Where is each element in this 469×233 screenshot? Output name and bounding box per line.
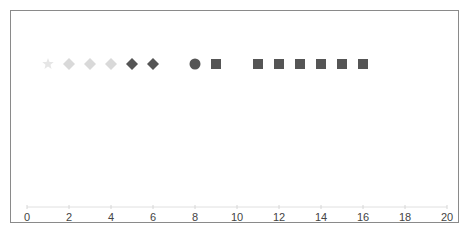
diamond-marker [105, 58, 117, 70]
diamond-marker [126, 58, 138, 70]
x-tick-label: 20 [441, 211, 453, 223]
circle-marker [190, 59, 201, 70]
square-marker [316, 59, 326, 69]
diamond-marker [147, 58, 159, 70]
x-tick-label: 2 [66, 211, 72, 223]
square-marker [358, 59, 368, 69]
x-axis-ticks: 02468101214161820 [24, 205, 453, 223]
x-tick-label: 14 [315, 211, 327, 223]
x-tick-label: 8 [192, 211, 198, 223]
x-tick-label: 16 [357, 211, 369, 223]
x-tick-label: 18 [399, 211, 411, 223]
x-tick-label: 10 [231, 211, 243, 223]
square-marker [337, 59, 347, 69]
star-marker [42, 58, 53, 69]
square-marker [295, 59, 305, 69]
x-tick-label: 6 [150, 211, 156, 223]
x-tick-label: 12 [273, 211, 285, 223]
diamond-marker [84, 58, 96, 70]
square-marker [253, 59, 263, 69]
scatter-chart: 02468101214161820 [0, 0, 469, 233]
x-tick-label: 4 [108, 211, 114, 223]
x-tick-label: 0 [24, 211, 30, 223]
data-points [42, 58, 368, 70]
square-marker [274, 59, 284, 69]
square-marker [211, 59, 221, 69]
diamond-marker [63, 58, 75, 70]
